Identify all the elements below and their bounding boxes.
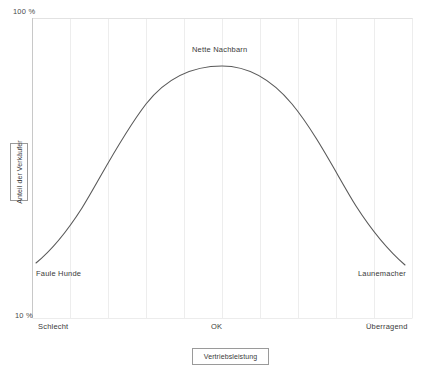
x-axis-title-label: Vertriebsleistung xyxy=(204,353,257,360)
annotation-nette-nachbarn: Nette Nachbarn xyxy=(192,45,247,54)
y-axis-title-label: Anteil der Verkäufer xyxy=(16,140,23,203)
x-axis-title: Vertriebsleistung xyxy=(192,348,269,365)
y-axis-min-label: 10 % xyxy=(15,311,33,320)
y-axis-title: Anteil der Verkäufer xyxy=(10,143,28,201)
x-axis-tick-label-schlecht: Schlecht xyxy=(38,322,68,331)
x-axis-tick-label-ok: OK xyxy=(211,322,222,331)
x-axis-tick-label-ueberragend: Überragend xyxy=(366,322,408,331)
bell-curve-chart: 100 % 10 % Anteil der Verkäufer Schlecht… xyxy=(0,0,424,378)
annotation-faule-hunde: Faule Hunde xyxy=(36,269,81,278)
annotation-launemacher: Launemacher xyxy=(358,269,406,278)
y-axis-max-label: 100 % xyxy=(13,7,35,16)
distribution-curve xyxy=(36,66,405,265)
